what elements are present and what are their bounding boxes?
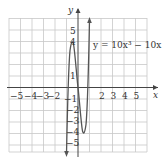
x-tick: −2: [47, 91, 60, 101]
x-tick: 2: [99, 91, 105, 101]
y-axis-arrow-icon: [76, 8, 81, 13]
y-tick: −1: [64, 94, 77, 104]
y-tick: −5: [66, 138, 80, 148]
x-tick: 4: [122, 91, 128, 101]
equation-label: y = 10x³ − 10x: [92, 40, 161, 50]
y-tick: −3: [66, 116, 80, 126]
x-tick: 3: [111, 91, 117, 101]
y-tick: 1: [70, 71, 76, 81]
function-plot: y x y = 10x³ − 10x −5 −4 −3 −2 2 3 4 5 5…: [0, 0, 165, 160]
curve-arrow-up-icon: [87, 17, 92, 23]
y-tick: 5: [70, 26, 76, 36]
y-tick: −4: [66, 127, 80, 137]
y-tick: −2: [66, 105, 79, 115]
x-tick: −5: [10, 91, 24, 101]
x-axis-label: x: [153, 90, 158, 100]
curve-arrow-down-icon: [64, 151, 69, 157]
y-axis-label: y: [67, 5, 74, 15]
x-tick: 5: [134, 91, 140, 101]
y-tick: 4: [70, 37, 76, 47]
